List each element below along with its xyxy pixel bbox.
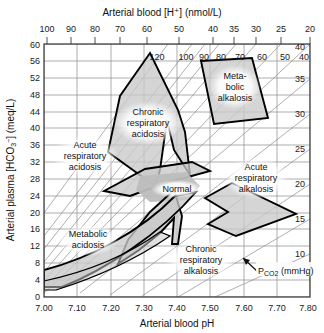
- pco2-right-20: 20: [295, 179, 305, 189]
- label-chronic-resp-acidosis-l3: acidosis: [132, 129, 165, 139]
- top-axis-title: Arterial blood [H⁺] (nmol/L): [102, 7, 221, 18]
- h-tick-100: 100: [39, 24, 54, 34]
- ph-tick-730: 7.30: [135, 303, 153, 313]
- ph-tick-770: 7.70: [268, 303, 286, 313]
- hco3-tick-56: 56: [30, 56, 40, 66]
- label-normal: Normal: [162, 184, 191, 194]
- label-metabolic-acidosis-l2: acidosis: [72, 240, 105, 250]
- pco2-right-30: 30: [295, 109, 305, 119]
- hco3-tick-40: 40: [30, 123, 40, 133]
- hco3-tick-4: 4: [35, 275, 40, 285]
- h-tick-70: 70: [115, 24, 125, 34]
- ph-tick-700: 7.00: [35, 303, 53, 313]
- label-chronic-resp-acidosis-l1: Chronic: [132, 107, 164, 117]
- pco2-right-40: 40: [295, 42, 305, 52]
- hco3-tick-32: 32: [30, 157, 40, 167]
- hco3-tick-0: 0: [35, 292, 40, 302]
- label-chronic-resp-alkalosis-l2: respiratory: [180, 255, 223, 265]
- hco3-tick-48: 48: [30, 90, 40, 100]
- bottom-axis-title: Arterial blood pH: [140, 318, 214, 329]
- left-axis-title-pre: Arterial plasma [HCO: [5, 147, 16, 242]
- label-acute-resp-acidosis-l1: Acute: [73, 140, 96, 150]
- label-acute-resp-acidosis-l2: respiratory: [64, 151, 107, 161]
- label-metabolic-alkalosis-l1: Meta-: [223, 71, 246, 81]
- hco3-tick-52: 52: [30, 73, 40, 83]
- pco2-right-10: 10: [295, 249, 305, 259]
- pco2-right-15: 15: [295, 214, 305, 224]
- hco3-tick-24: 24: [30, 191, 40, 201]
- pco2-top-80: 80: [216, 52, 226, 62]
- pco2-top-70: 70: [235, 52, 245, 62]
- pco2-top-90: 90: [199, 52, 209, 62]
- nomogram-svg: Arterial blood [H⁺] (nmol/L) 100 90 80 7…: [0, 0, 324, 333]
- h-tick-25: 25: [276, 24, 286, 34]
- label-chronic-resp-alkalosis-l3: alkalosis: [184, 266, 219, 276]
- label-chronic-respiratory-acidosis: Chronic respiratory acidosis: [127, 107, 170, 139]
- h-tick-90: 90: [66, 24, 76, 34]
- pco2-label-sub: CO: [264, 270, 275, 277]
- pco2-top-40: 40: [299, 52, 309, 62]
- h-tick-30: 30: [251, 24, 261, 34]
- acid-base-nomogram-figure: Arterial blood [H⁺] (nmol/L) 100 90 80 7…: [0, 0, 324, 333]
- ph-tick-720: 7.20: [102, 303, 120, 313]
- h-tick-40: 40: [208, 24, 218, 34]
- pco2-top-120: 120: [149, 52, 164, 62]
- label-metabolic-acidosis: Metabolic acidosis: [69, 229, 108, 250]
- h-tick-20: 20: [305, 24, 315, 34]
- hco3-tick-28: 28: [30, 174, 40, 184]
- label-acute-resp-alkalosis-l3: alkalosis: [239, 184, 274, 194]
- hco3-tick-36: 36: [30, 140, 40, 150]
- h-tick-35: 35: [229, 24, 239, 34]
- ph-tick-780: 7.80: [299, 303, 317, 313]
- label-acute-resp-acidosis-l3: acidosis: [69, 162, 102, 172]
- pco2-top-60: 60: [257, 52, 267, 62]
- ph-tick-760: 7.60: [235, 303, 253, 313]
- pco2-top-50: 50: [280, 52, 290, 62]
- label-chronic-respiratory-alkalosis: Chronic respiratory alkalosis: [180, 244, 223, 276]
- label-acute-resp-alkalosis-l2: respiratory: [235, 173, 278, 183]
- h-tick-80: 80: [90, 24, 100, 34]
- label-metabolic-alkalosis-l2: bolic: [226, 82, 245, 92]
- pco2-right-25: 25: [295, 144, 305, 154]
- pco2-right-35: 35: [295, 74, 305, 84]
- hco3-tick-60: 60: [30, 40, 40, 50]
- label-chronic-resp-alkalosis-l1: Chronic: [185, 244, 217, 254]
- label-chronic-resp-acidosis-l2: respiratory: [127, 118, 170, 128]
- hco3-tick-44: 44: [30, 107, 40, 117]
- hco3-tick-8: 8: [35, 258, 40, 268]
- hco3-tick-12: 12: [30, 241, 40, 251]
- label-metabolic-alkalosis-l3: alkalosis: [218, 93, 253, 103]
- pco2-top-100: 100: [178, 52, 193, 62]
- left-axis-title-post: ] (meq/L): [5, 99, 16, 139]
- label-metabolic-acidosis-l1: Metabolic: [69, 229, 108, 239]
- svg-text:Arterial plasma [HCO3−] (meq/L: Arterial plasma [HCO3−] (meq/L): [5, 99, 17, 241]
- hco3-tick-16: 16: [30, 224, 40, 234]
- ph-tick-710: 7.10: [68, 303, 86, 313]
- hco3-tick-20: 20: [30, 208, 40, 218]
- ph-tick-740: 7.40: [168, 303, 186, 313]
- ph-tick-labels: 7.00 7.10 7.20 7.30 7.40 7.50 7.60 7.70 …: [35, 303, 317, 313]
- left-axis-title: Arterial plasma [HCO3−] (meq/L): [5, 99, 17, 241]
- ph-tick-750: 7.50: [201, 303, 219, 313]
- label-acute-resp-alkalosis-l1: Acute: [244, 162, 267, 172]
- h-tick-50: 50: [174, 24, 184, 34]
- h-tick-60: 60: [142, 24, 152, 34]
- pco2-label-post: (mmHg): [278, 266, 313, 276]
